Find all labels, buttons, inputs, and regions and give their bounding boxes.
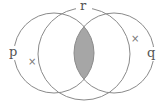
- label-r: r: [80, 0, 87, 13]
- venn-diagram: r p q × ×: [0, 0, 164, 106]
- cross-mark-p: ×: [28, 56, 36, 67]
- cross-mark-q: ×: [131, 33, 139, 44]
- label-p: p: [9, 44, 17, 59]
- label-q: q: [147, 45, 155, 60]
